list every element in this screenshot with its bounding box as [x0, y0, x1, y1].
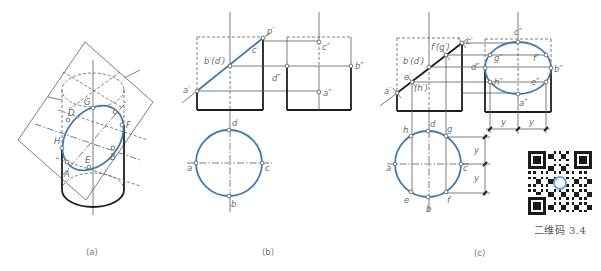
point-marker [317, 90, 321, 94]
point-marker [426, 129, 430, 133]
qr-code-caption: 二维码 3.4 [522, 222, 598, 237]
point-marker [66, 118, 70, 122]
point-label: d″ [272, 73, 281, 83]
point-label: (h′) [414, 83, 428, 93]
point-marker [444, 53, 448, 57]
point-label: h″ [494, 77, 503, 87]
point-label: b′(d′) [204, 56, 225, 66]
engineering-drawing-canvas: GDFHBEA(a)p′c′b′(d′)a′c″d″a″b″dacb(b)f′(… [0, 0, 601, 271]
point-label: c [463, 163, 468, 173]
point-label: f′(g′) [431, 42, 450, 52]
point-label: H [54, 136, 61, 146]
point-label: e [404, 195, 409, 205]
point-marker [444, 134, 448, 138]
point-marker [317, 40, 321, 44]
point-marker [483, 66, 487, 70]
point-marker [113, 110, 117, 114]
figure-a-oblique-cut-cylinder: GDFHBEA(a) [18, 42, 153, 257]
point-label: a″ [519, 98, 528, 108]
qr-logo-icon [553, 176, 567, 190]
point-label: c′ [466, 36, 473, 46]
point-label: c′ [252, 45, 259, 55]
point-label: d [232, 118, 238, 128]
point-marker [227, 194, 231, 198]
point-label: b [426, 204, 431, 214]
figure-b-projection-views: p′c′b′(d′)a′c″d″a″b″dacb(b) [182, 12, 364, 257]
point-label: G [84, 97, 91, 107]
point-label: E [85, 155, 91, 165]
point-label: A [63, 169, 70, 179]
point-label: p′ [266, 26, 274, 36]
point-marker [261, 36, 265, 40]
construction-line [48, 97, 62, 100]
point-label: f [447, 195, 452, 205]
figure-caption: (c) [474, 248, 485, 258]
point-label: h [403, 125, 408, 135]
point-label: F [126, 120, 131, 130]
point-marker [87, 165, 91, 169]
point-marker [544, 80, 548, 84]
point-marker [488, 53, 492, 57]
point-label: b″ [554, 64, 563, 74]
point-marker [516, 92, 520, 96]
point-marker [195, 89, 199, 93]
cutting-plane-outline [18, 42, 153, 200]
point-marker [460, 41, 464, 45]
point-marker [111, 146, 115, 150]
point-label: y [500, 117, 507, 127]
point-label: d″ [471, 62, 480, 72]
figure-caption: (a) [86, 247, 98, 257]
point-label: y [528, 117, 535, 127]
point-label: y [473, 173, 480, 183]
point-marker [349, 64, 353, 68]
point-label: f″ [533, 53, 540, 63]
point-marker [60, 146, 64, 150]
point-marker [65, 160, 69, 164]
point-marker [91, 106, 95, 110]
point-marker [409, 190, 413, 194]
point-label: b′(d′) [403, 56, 424, 66]
point-label: D [68, 108, 75, 118]
qr-module [589, 212, 592, 215]
point-marker [395, 91, 399, 95]
point-marker [260, 161, 264, 165]
point-label: g″ [494, 53, 503, 63]
point-label: e″ [531, 77, 540, 87]
point-marker [228, 64, 232, 68]
point-marker [427, 65, 431, 69]
point-marker [285, 64, 289, 68]
point-label: g [447, 124, 453, 134]
point-marker [120, 123, 124, 127]
point-marker [549, 66, 553, 70]
point-label: a′ [183, 85, 190, 95]
point-marker [409, 134, 413, 138]
point-marker [444, 190, 448, 194]
figure-caption: (b) [262, 247, 274, 257]
point-label: c″ [514, 27, 523, 37]
point-label: c″ [322, 42, 331, 52]
construction-line [124, 70, 140, 78]
point-marker [227, 128, 231, 132]
point-label: B [110, 152, 116, 162]
point-marker [426, 195, 430, 199]
point-label: b [231, 199, 236, 209]
point-marker [488, 80, 492, 84]
point-marker [544, 53, 548, 57]
point-label: y [473, 145, 480, 155]
point-label: b″ [355, 61, 364, 71]
point-label: d [430, 119, 436, 129]
point-marker [194, 161, 198, 165]
point-label: a [386, 163, 391, 173]
point-label: c [265, 163, 270, 173]
point-label: e′ [404, 72, 411, 82]
point-label: a′ [384, 86, 391, 96]
point-label: a [187, 163, 192, 173]
point-marker [516, 40, 520, 44]
point-label: a″ [323, 88, 332, 98]
point-marker [393, 162, 397, 166]
